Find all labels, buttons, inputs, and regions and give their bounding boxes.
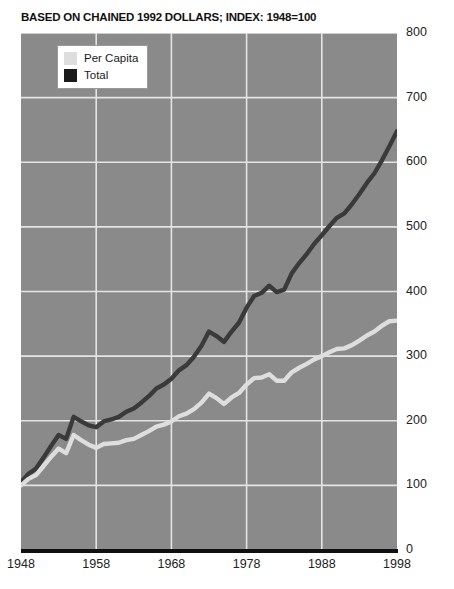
legend-item-per-capita: Per Capita — [64, 51, 138, 66]
y-tick-700: 700 — [406, 91, 427, 104]
x-tick-1988: 1988 — [308, 558, 336, 571]
chart-page: BASED ON CHAINED 1992 DOLLARS; INDEX: 19… — [0, 0, 454, 589]
y-tick-200: 200 — [406, 414, 427, 427]
y-tick-100: 100 — [406, 478, 427, 491]
line-chart-svg — [21, 33, 397, 550]
y-tick-500: 500 — [406, 220, 427, 233]
x-tick-1948: 1948 — [7, 558, 35, 571]
chart-legend: Per Capita Total — [57, 45, 148, 89]
y-tick-800: 800 — [406, 26, 427, 39]
legend-swatch-per-capita — [64, 52, 77, 65]
x-tick-1978: 1978 — [233, 558, 261, 571]
y-tick-300: 300 — [406, 349, 427, 362]
y-tick-600: 600 — [406, 155, 427, 168]
chart-title: BASED ON CHAINED 1992 DOLLARS; INDEX: 19… — [21, 11, 316, 23]
legend-swatch-total — [64, 69, 77, 82]
legend-label-total: Total — [84, 70, 108, 82]
x-tick-1968: 1968 — [157, 558, 185, 571]
legend-label-per-capita: Per Capita — [84, 53, 138, 65]
legend-item-total: Total — [64, 68, 138, 83]
x-axis-baseline — [21, 549, 398, 553]
y-tick-400: 400 — [406, 285, 427, 298]
x-tick-1958: 1958 — [82, 558, 110, 571]
x-tick-1998: 1998 — [383, 558, 411, 571]
plot-area — [21, 33, 397, 550]
y-tick-0: 0 — [406, 543, 413, 556]
